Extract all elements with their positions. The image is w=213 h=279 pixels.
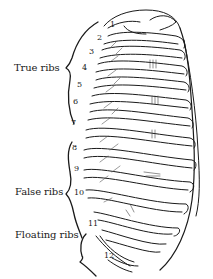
rib-number-12: 12 — [104, 252, 114, 260]
rib-number-3: 3 — [89, 48, 94, 56]
rib-number-6: 6 — [73, 98, 78, 106]
rib-number-4: 4 — [82, 64, 87, 72]
rib-cage-diagram: True ribs False ribs Floating ribs 1 2 3… — [0, 0, 213, 279]
true-ribs-label: True ribs — [14, 62, 60, 73]
false-ribs-label: False ribs — [15, 186, 63, 197]
floating-ribs-label: Floating ribs — [15, 229, 79, 240]
rib-number-5: 5 — [77, 81, 82, 89]
rib-number-8: 8 — [72, 144, 77, 152]
rib-number-9: 9 — [74, 165, 79, 173]
rib-number-1: 1 — [110, 21, 115, 29]
rib-number-10: 10 — [74, 189, 84, 197]
rib-number-7: 7 — [71, 119, 76, 127]
rib-number-11: 11 — [88, 220, 98, 228]
ribs — [84, 32, 196, 272]
rib-number-2: 2 — [97, 34, 102, 42]
floating-ribs-brace — [80, 234, 96, 276]
true-ribs-brace — [66, 22, 98, 124]
